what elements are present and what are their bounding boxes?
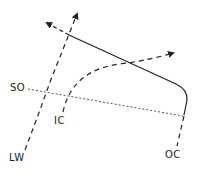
so-line [28,89,183,116]
label-so: SO [10,83,25,93]
oc-line [177,116,184,146]
lw-line [25,14,77,150]
label-oc: OC [165,150,181,160]
ic-curve [63,53,173,112]
upper-left-arrow [47,23,69,35]
label-ic: IC [54,116,65,126]
label-lw: LW [9,153,25,163]
